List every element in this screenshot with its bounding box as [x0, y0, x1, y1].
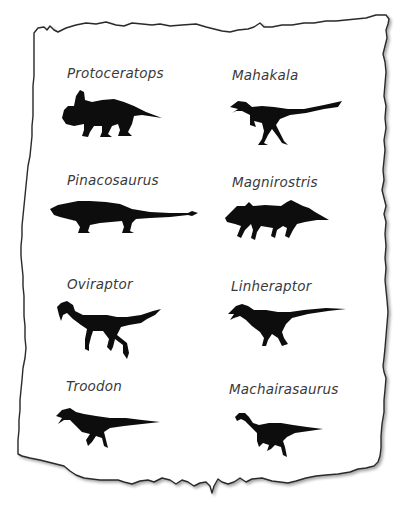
oviraptor-silhouette-icon	[57, 301, 167, 363]
dinosaur-name-label: Pinacosaurus	[67, 172, 159, 188]
dinosaur-name-label: Mahakala	[232, 67, 298, 83]
dinosaur-name-label: Magnirostris	[232, 174, 318, 190]
linheraptor-silhouette-icon	[228, 302, 348, 350]
magnirostris-silhouette-icon	[225, 200, 330, 242]
protoceratops-silhouette-icon	[62, 88, 167, 140]
dinosaur-name-label: Linheraptor	[231, 278, 311, 294]
dinosaur-name-label: Protoceratops	[67, 65, 164, 81]
dinosaur-name-label: Machairasaurus	[229, 381, 339, 397]
troodon-silhouette-icon	[56, 406, 164, 450]
dinosaur-name-label: Troodon	[66, 378, 122, 394]
machairasaurus-silhouette-icon	[233, 411, 325, 459]
pinacosaurus-silhouette-icon	[50, 199, 200, 235]
mahakala-silhouette-icon	[228, 99, 348, 147]
dinosaur-name-label: Oviraptor	[67, 276, 133, 292]
